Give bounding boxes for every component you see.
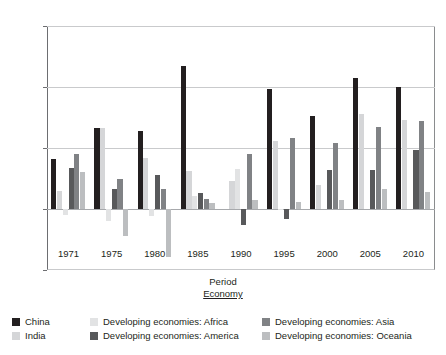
bar	[51, 159, 56, 209]
bar	[155, 175, 160, 209]
legend-label: Developing economies: America	[103, 330, 239, 341]
y-tick-mark	[43, 270, 47, 271]
x-tick-label: 1995	[274, 248, 295, 259]
bar	[63, 209, 68, 215]
bar	[106, 209, 111, 221]
legend-label: China	[25, 316, 50, 327]
y-tick-mark	[43, 209, 47, 210]
x-tick-label: 1971	[58, 248, 79, 259]
legend-column: ChinaIndia	[12, 316, 90, 341]
bar	[402, 120, 407, 209]
bar	[359, 114, 364, 209]
bar-group	[47, 26, 90, 270]
bar	[425, 192, 430, 209]
legend-label: Developing economies: Africa	[103, 316, 228, 327]
bar-group	[306, 26, 349, 270]
bar	[69, 168, 74, 209]
bar	[74, 154, 79, 209]
bar-group	[90, 26, 133, 270]
plot-area	[47, 26, 435, 270]
x-axis-title: Period	[0, 276, 446, 287]
bar	[112, 189, 117, 209]
x-tick-label: 2000	[317, 248, 338, 259]
legend-title: Economy	[0, 288, 446, 299]
bar-group	[392, 26, 435, 270]
bar-group	[133, 26, 176, 270]
legend-swatch-icon	[12, 318, 20, 326]
bar	[100, 128, 105, 209]
bar	[382, 189, 387, 209]
bar	[94, 128, 99, 209]
bar-group	[263, 26, 306, 270]
bar	[296, 202, 301, 209]
bar	[229, 181, 234, 209]
bar-chart: 151050-5 1971197519801985199019952000200…	[0, 0, 446, 355]
bar	[181, 66, 186, 209]
bar	[419, 121, 424, 209]
bar	[138, 131, 143, 209]
legend: ChinaIndiaDeveloping economies: AfricaDe…	[0, 316, 446, 341]
bar	[333, 143, 338, 209]
y-tick-mark	[43, 148, 47, 149]
bar-group	[219, 26, 262, 270]
bar	[278, 209, 283, 210]
x-tick-label: 1975	[101, 248, 122, 259]
legend-swatch-icon	[262, 332, 270, 340]
bar	[204, 199, 209, 209]
legend-item[interactable]: Developing economies: America	[90, 330, 262, 341]
bar	[186, 171, 191, 209]
bar	[198, 193, 203, 209]
bar-group	[349, 26, 392, 270]
bar	[290, 138, 295, 209]
bar	[370, 170, 375, 209]
bar	[143, 158, 148, 209]
bar	[396, 87, 401, 209]
bar	[310, 116, 315, 209]
legend-item[interactable]: China	[12, 316, 90, 327]
legend-label: India	[25, 330, 46, 341]
legend-column: Developing economies: AfricaDeveloping e…	[90, 316, 262, 341]
legend-item[interactable]: Developing economies: Oceania	[262, 330, 434, 341]
bar	[339, 200, 344, 209]
bar	[161, 189, 166, 209]
bar	[252, 200, 257, 209]
bar	[149, 209, 154, 216]
bar	[376, 127, 381, 209]
bar	[80, 172, 85, 209]
legend-swatch-icon	[90, 332, 98, 340]
legend-label: Developing economies: Asia	[275, 316, 394, 327]
bar	[413, 150, 418, 209]
x-tick-label: 1990	[230, 248, 251, 259]
bar	[235, 169, 240, 209]
legend-swatch-icon	[262, 318, 270, 326]
legend-item[interactable]: India	[12, 330, 90, 341]
legend-swatch-icon	[12, 332, 20, 340]
bar	[241, 209, 246, 225]
bar	[209, 203, 214, 209]
bar	[166, 209, 171, 257]
bar	[123, 209, 128, 236]
x-tick-label: 2005	[360, 248, 381, 259]
legend-label: Developing economies: Oceania	[275, 330, 412, 341]
y-tick-mark	[43, 26, 47, 27]
x-tick-label: 2010	[403, 248, 424, 259]
bar	[267, 89, 272, 209]
legend-item[interactable]: Developing economies: Africa	[90, 316, 262, 327]
x-tick-label: 1985	[187, 248, 208, 259]
x-tick-label: 1980	[144, 248, 165, 259]
bar	[284, 209, 289, 219]
bar	[353, 78, 358, 209]
bar	[316, 185, 321, 209]
legend-item[interactable]: Developing economies: Asia	[262, 316, 434, 327]
legend-swatch-icon	[90, 318, 98, 326]
bar	[117, 179, 122, 210]
y-tick-mark	[43, 87, 47, 88]
bar	[273, 141, 278, 209]
bar-group	[176, 26, 219, 270]
bar	[327, 170, 332, 209]
bar	[192, 196, 197, 209]
bar	[247, 154, 252, 209]
legend-column: Developing economies: AsiaDeveloping eco…	[262, 316, 434, 341]
bar	[57, 191, 62, 209]
